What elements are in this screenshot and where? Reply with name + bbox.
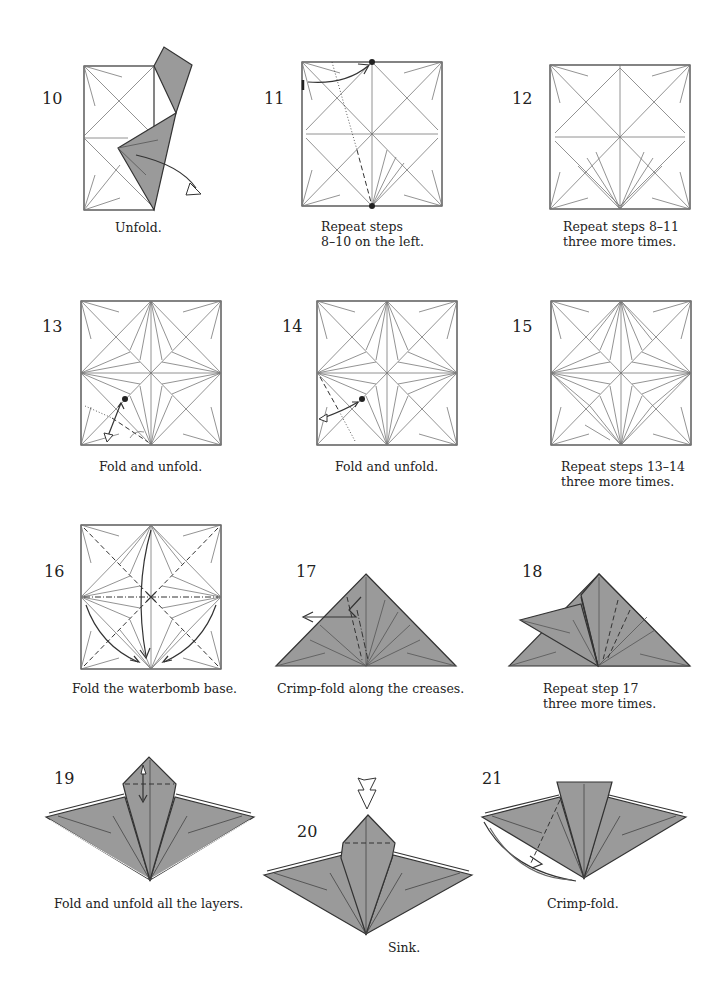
step-21-diagram xyxy=(0,0,725,982)
step-caption: Crimp-fold. xyxy=(547,896,619,911)
